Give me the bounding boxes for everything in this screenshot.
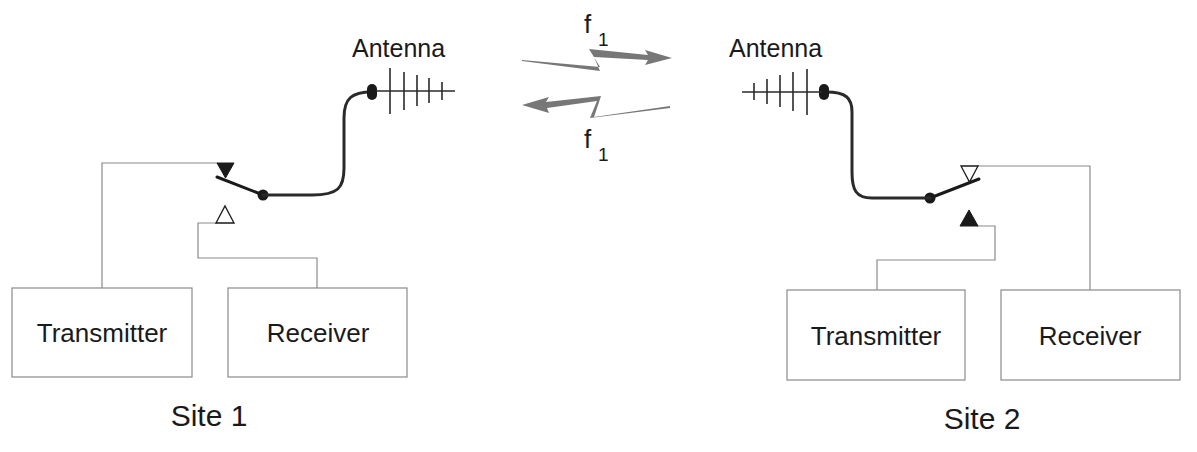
yagi-antenna-icon: [367, 68, 455, 114]
receiver-label: Receiver: [267, 318, 370, 348]
switch-arm: [930, 179, 979, 198]
site-1-receiver: Receiver: [228, 288, 407, 377]
tx-contact-icon: [960, 210, 978, 226]
transmitter-label: Transmitter: [811, 321, 942, 351]
site-label: Site 2: [944, 402, 1021, 435]
lightning-arrow-left-icon: [522, 96, 670, 118]
forward-frequency-subscript: 1: [598, 29, 609, 50]
transmitter-label: Transmitter: [37, 318, 168, 348]
receiver-wire: [977, 166, 1090, 290]
lightning-arrow-right-icon: [522, 49, 672, 71]
receiver-wire: [198, 223, 317, 288]
reverse-frequency-subscript: 1: [598, 144, 609, 165]
site-2-receiver: Receiver: [1001, 290, 1180, 380]
site-2-transmitter: Transmitter: [787, 290, 965, 380]
site-2: Transmitter Receiver Antenna: [729, 34, 1180, 435]
site-label: Site 1: [171, 399, 248, 432]
tx-contact-active-icon: [217, 163, 234, 178]
switch-arm: [217, 177, 263, 195]
transmitter-wire: [102, 163, 218, 288]
site-1-transmitter: Transmitter: [12, 288, 192, 377]
receiver-label: Receiver: [1039, 321, 1142, 351]
site-1: Transmitter Receiver Antenna: [12, 34, 455, 432]
forward-frequency-label: f: [584, 9, 592, 39]
radio-link: f 1 f 1: [522, 9, 672, 165]
yagi-antenna-icon: [742, 69, 829, 115]
antenna-cable: [826, 92, 930, 198]
reverse-frequency-label: f: [584, 124, 592, 154]
rx-contact-inactive-icon: [216, 206, 234, 223]
transmitter-wire: [877, 226, 995, 290]
antenna-cable: [263, 92, 372, 195]
radio-link-diagram: Transmitter Receiver Antenna: [0, 0, 1197, 452]
antenna-label: Antenna: [729, 34, 822, 62]
antenna-label: Antenna: [352, 34, 445, 62]
